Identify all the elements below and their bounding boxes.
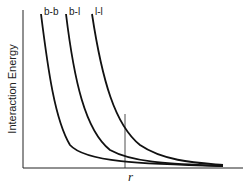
- x-axis-label: r: [128, 169, 133, 185]
- curve-b-l: [66, 14, 223, 166]
- curve-label-b-l: b-l: [69, 6, 80, 17]
- curve-label-l-l: l-l: [95, 6, 103, 17]
- curve-l-l: [92, 14, 223, 165]
- curve-label-b-b: b-b: [44, 6, 58, 17]
- interaction-energy-chart: [0, 0, 246, 188]
- y-axis-label: Interaction Energy: [5, 39, 19, 139]
